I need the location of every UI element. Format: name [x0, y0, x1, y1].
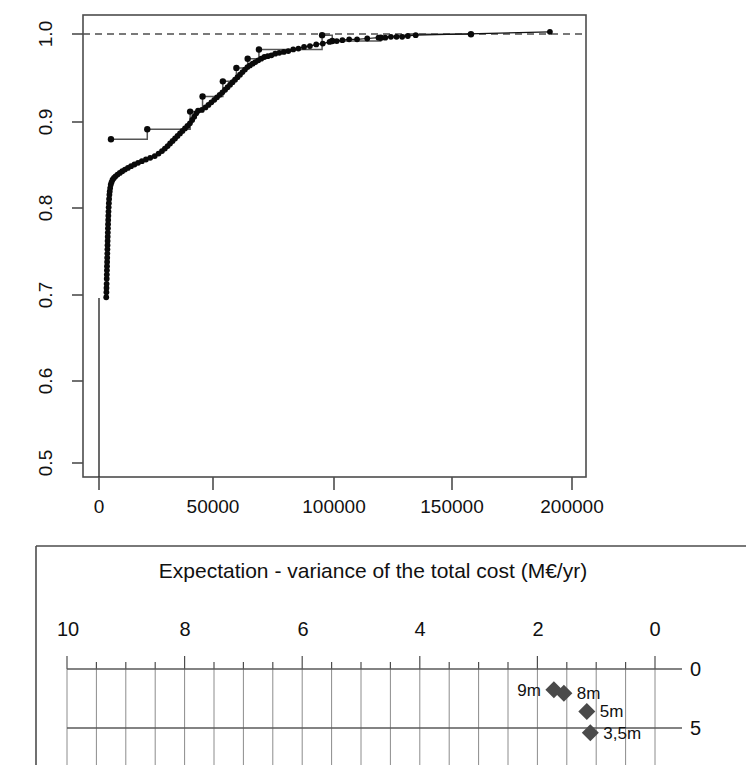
ecdf-data-point — [290, 47, 296, 53]
mv-axis-ticks — [67, 656, 655, 669]
ecdf-data-point — [394, 34, 400, 40]
ecdf-y-axis-ticks — [72, 34, 83, 463]
ecdf-y-tick-label: 0.9 — [35, 109, 56, 135]
mv-chart-title: Expectation - variance of the total cost… — [159, 559, 587, 582]
mv-y-tick-label: 0 — [690, 658, 701, 680]
mv-point-label: 5m — [600, 702, 624, 721]
ecdf-data-point — [346, 36, 352, 42]
ecdf-y-tick-label: 0.8 — [35, 195, 56, 221]
ecdf-chart: 1.0 0.9 0.8 0.7 0.6 0.5 0 50000 100000 1… — [0, 0, 746, 530]
ecdf-x-tick-label: 200000 — [540, 496, 603, 517]
ecdf-y-tick-label: 1.0 — [35, 21, 56, 47]
ecdf-data-point — [301, 44, 307, 50]
ecdf-data-point — [327, 39, 333, 45]
ecdf-step-point — [199, 93, 205, 99]
ecdf-data-point — [103, 294, 109, 300]
ecdf-x-axis-ticks — [99, 477, 572, 490]
mv-x-tick-label: 10 — [57, 618, 79, 640]
ecdf-data-point — [399, 34, 405, 40]
expectation-variance-svg: Expectation - variance of the total cost… — [0, 536, 746, 765]
ecdf-data-point — [339, 37, 345, 43]
mv-x-tick-label: 4 — [414, 618, 425, 640]
mv-x-tick-label: 0 — [649, 618, 660, 640]
ecdf-data-point — [320, 41, 326, 47]
mv-y-tick-labels: 0 5 — [690, 658, 701, 739]
ecdf-data-point — [334, 38, 340, 44]
mv-point-label: 3,5m — [603, 724, 641, 743]
ecdf-x-tick-label: 50000 — [187, 496, 240, 517]
ecdf-step-point — [468, 31, 474, 37]
ecdf-step-point — [187, 108, 193, 114]
ecdf-x-tick-label: 150000 — [420, 496, 483, 517]
ecdf-data-point — [382, 35, 388, 41]
ecdf-data-point — [364, 36, 370, 42]
ecdf-step-point — [144, 126, 150, 132]
ecdf-y-tick-label: 0.5 — [35, 450, 56, 476]
mv-point-label: 8m — [577, 684, 601, 703]
mv-x-tick-label: 8 — [179, 618, 190, 640]
ecdf-y-tick-labels: 1.0 0.9 0.8 0.7 0.6 0.5 — [35, 21, 56, 476]
ecdf-data-point — [104, 281, 110, 287]
ecdf-step-point — [108, 136, 114, 142]
expectation-variance-chart: Expectation - variance of the total cost… — [0, 536, 746, 765]
ecdf-dot-markers — [103, 29, 552, 300]
ecdf-data-point — [413, 32, 419, 38]
mv-diamond-marker — [578, 703, 595, 720]
ecdf-y-tick-label: 0.6 — [35, 368, 56, 394]
ecdf-data-point — [285, 48, 291, 54]
mv-point-label: 9m — [517, 681, 541, 700]
ecdf-x-tick-labels: 0 50000 100000 150000 200000 — [94, 496, 604, 517]
ecdf-y-tick-label: 0.7 — [35, 282, 56, 308]
ecdf-data-point — [354, 36, 360, 42]
ecdf-dot-series-line — [106, 32, 550, 297]
ecdf-step-point — [256, 46, 262, 52]
mv-x-tick-label: 2 — [532, 618, 543, 640]
ecdf-x-tick-label: 0 — [94, 496, 105, 517]
ecdf-step-point — [244, 55, 250, 61]
ecdf-data-point — [388, 34, 394, 40]
ecdf-data-point — [296, 46, 302, 52]
ecdf-step-point — [220, 78, 226, 84]
ecdf-data-point — [547, 29, 553, 35]
ecdf-x-tick-label: 100000 — [302, 496, 365, 517]
ecdf-svg: 1.0 0.9 0.8 0.7 0.6 0.5 0 50000 100000 1… — [0, 0, 746, 530]
mv-x-tick-label: 6 — [297, 618, 308, 640]
ecdf-step-point — [319, 32, 325, 38]
ecdf-data-point — [313, 42, 319, 48]
mv-x-tick-labels: 10 8 6 4 2 0 — [57, 618, 661, 640]
ecdf-data-point — [405, 33, 411, 39]
ecdf-data-point — [376, 35, 382, 41]
mv-data-points: 9m8m5m3,5m — [517, 681, 641, 743]
mv-gridlines — [67, 669, 655, 765]
ecdf-plot-frame — [83, 15, 586, 477]
mv-y-tick-label: 5 — [690, 717, 701, 739]
ecdf-step-point — [233, 65, 239, 71]
ecdf-data-point — [307, 43, 313, 49]
